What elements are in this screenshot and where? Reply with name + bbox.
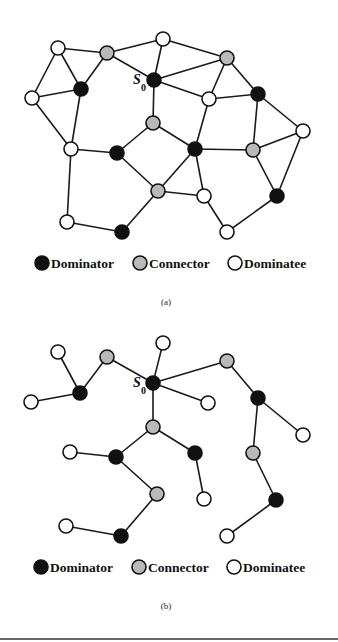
edge: [107, 53, 154, 80]
dominator-node: [188, 446, 202, 460]
dominator-node: [251, 391, 265, 405]
dominatee-legend-icon: [227, 560, 241, 574]
edge: [253, 398, 258, 453]
legend-label-connector: Connector: [149, 256, 210, 271]
root-label-s: S: [133, 375, 141, 390]
root-label-subscript: 0: [141, 385, 146, 396]
connector-legend-icon: [132, 560, 146, 574]
dominatee-node: [25, 91, 39, 105]
dominatee-node: [64, 142, 78, 156]
edge: [277, 131, 303, 196]
dominatee-node: [59, 519, 73, 533]
figure-a-full-network: S 0 DominatorConnectorDominatee (a): [25, 32, 310, 307]
dominator-node: [110, 146, 124, 160]
dominator-node: [114, 529, 128, 543]
legend-label-dominator: Dominator: [50, 560, 113, 575]
dominator-legend-icon: [34, 560, 48, 574]
edge: [258, 94, 303, 131]
edge: [67, 149, 71, 222]
dominator-node: [146, 376, 160, 390]
figure-caption: (a): [161, 297, 171, 307]
edge: [195, 149, 253, 150]
figure-caption: (b): [161, 601, 172, 611]
edge: [158, 149, 195, 191]
root-label-s: S: [133, 72, 141, 87]
edge: [227, 196, 277, 232]
edge: [32, 48, 58, 98]
dominatee-node: [296, 124, 310, 138]
connector-node: [151, 184, 165, 198]
connector-node: [246, 446, 260, 460]
legend-label-dominatee: Dominatee: [243, 560, 305, 575]
dominatee-node: [197, 189, 211, 203]
legend: DominatorConnectorDominatee: [35, 256, 306, 271]
edge: [153, 361, 227, 383]
dominator-node: [269, 493, 283, 507]
edge: [258, 398, 303, 435]
connector-node: [146, 116, 160, 130]
dominator-node: [147, 73, 161, 87]
connector-node: [100, 46, 114, 60]
legend-label-connector: Connector: [148, 560, 209, 575]
network-edges: [32, 39, 303, 232]
dominatee-node: [51, 41, 65, 55]
dominatee-legend-icon: [228, 256, 242, 270]
edge: [154, 58, 227, 80]
legend-label-dominatee: Dominatee: [244, 256, 306, 271]
dominatee-node: [220, 529, 234, 543]
dominator-node: [115, 225, 129, 239]
tree-edges: [31, 343, 303, 536]
edge: [32, 98, 71, 149]
connector-node: [220, 354, 234, 368]
dominator-node: [251, 87, 265, 101]
edge: [67, 222, 122, 232]
dominatee-node: [202, 92, 216, 106]
connector-node: [146, 420, 160, 434]
connector-node: [220, 51, 234, 65]
edge: [154, 80, 209, 99]
figure-b-spanning-tree: S 0 DominatorConnectorDominatee (b): [24, 336, 310, 611]
edge: [107, 357, 153, 383]
dominatee-node: [296, 428, 310, 442]
edge: [253, 131, 303, 150]
dominator-node: [270, 189, 284, 203]
edge: [117, 153, 158, 191]
edge: [66, 526, 121, 536]
edge: [107, 39, 163, 53]
dominatee-node: [197, 492, 211, 506]
dominator-node: [74, 82, 88, 96]
dominator-node: [109, 450, 123, 464]
edge: [153, 383, 208, 403]
dominatee-node: [201, 396, 215, 410]
root-label-subscript: 0: [141, 82, 146, 93]
dominatee-node: [60, 215, 74, 229]
diagram-canvas: S 0 DominatorConnectorDominatee (a) S 0 …: [0, 0, 338, 642]
dominatee-node: [24, 395, 38, 409]
dominatee-node: [63, 445, 77, 459]
legend-label-dominator: Dominator: [51, 256, 114, 271]
edge: [121, 494, 157, 536]
edge: [253, 453, 276, 500]
dominator-node: [73, 386, 87, 400]
dominator-legend-icon: [35, 256, 49, 270]
edge: [253, 94, 258, 150]
edge: [227, 500, 276, 536]
dominatee-node: [220, 225, 234, 239]
connector-node: [246, 143, 260, 157]
dominatee-node: [51, 345, 65, 359]
legend: DominatorConnectorDominatee: [34, 560, 305, 575]
edge: [71, 89, 81, 149]
edge: [163, 39, 227, 58]
edge: [122, 191, 158, 232]
dominatee-node: [156, 32, 170, 46]
connector-node: [100, 350, 114, 364]
dominator-node: [188, 142, 202, 156]
connector-legend-icon: [133, 256, 147, 270]
edge: [116, 457, 157, 494]
connector-node: [150, 487, 164, 501]
dominatee-node: [156, 336, 170, 350]
